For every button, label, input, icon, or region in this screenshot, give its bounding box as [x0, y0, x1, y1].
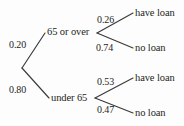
probability-label-young-have-loan: 0.53 [97, 77, 114, 87]
probability-label-old-have-loan: 0.26 [97, 15, 114, 25]
node-label-young-have-loan: have loan [135, 73, 175, 84]
node-label-young-no-loan: no loan [135, 108, 166, 119]
node-label-old-have-loan: have loan [135, 8, 175, 19]
probability-label-old-no-loan: 0.74 [96, 43, 113, 53]
node-label-old-no-loan: no loan [135, 43, 166, 54]
node-label-65-or-over: 65 or over [47, 27, 89, 38]
probability-label-young-no-loan: 0.47 [97, 105, 114, 115]
node-label-under-65: under 65 [51, 93, 87, 104]
probability-label-under-65: 0.80 [9, 85, 26, 95]
probability-tree-diagram: 0.20 0.80 65 or over under 65 0.26 0.74 … [0, 0, 184, 126]
probability-label-65-or-over: 0.20 [9, 40, 26, 50]
